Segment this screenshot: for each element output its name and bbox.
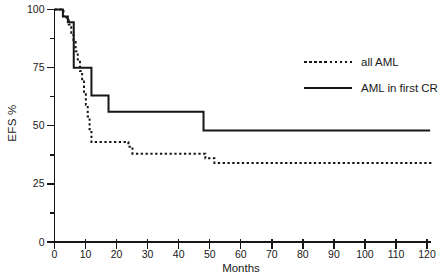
survival-chart-canvas: 01020304050607080901001101200255075100 [0, 0, 442, 280]
solid-line-swatch [304, 87, 352, 89]
x-tick-label: 20 [111, 248, 123, 260]
x-tick-label: 10 [80, 248, 92, 260]
x-tick-label: 110 [388, 248, 405, 260]
x-tick-label: 120 [418, 248, 436, 260]
legend-label-aml-first-cr: AML in first CR [361, 82, 438, 94]
dotted-line-swatch [304, 61, 352, 63]
x-axis-title: Months [211, 262, 271, 274]
legend-label-all-aml: all AML [361, 56, 399, 68]
x-tick-label: 40 [173, 248, 185, 260]
legend-item-aml-first-cr: AML in first CR [304, 80, 442, 96]
x-tick-label: 60 [235, 248, 247, 260]
x-tick-label: 0 [52, 248, 58, 260]
legend: all AML AML in first CR [304, 54, 442, 96]
y-tick-label: 100 [27, 3, 45, 15]
y-tick-label: 25 [33, 177, 45, 189]
y-axis-title: EFS % [6, 97, 20, 149]
x-tick-label: 50 [204, 248, 216, 260]
x-tick-label: 70 [266, 248, 278, 260]
y-tick-label: 50 [33, 119, 45, 131]
x-tick-label: 30 [142, 248, 154, 260]
legend-item-all-aml: all AML [304, 54, 442, 70]
x-tick-label: 80 [297, 248, 309, 260]
y-tick-label: 75 [33, 61, 45, 73]
y-tick-label: 0 [39, 236, 45, 248]
x-tick-label: 100 [356, 248, 374, 260]
x-tick-label: 90 [328, 248, 340, 260]
efs-survival-figure: 01020304050607080901001101200255075100 E… [0, 0, 442, 280]
